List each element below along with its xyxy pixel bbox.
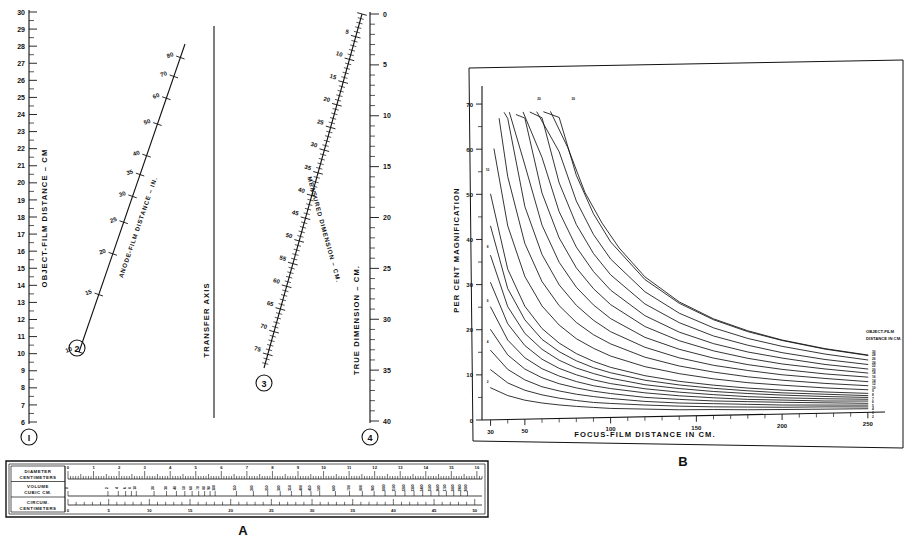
scale-1-tick-label: 25	[17, 94, 25, 101]
chart-x-tick-label: 50	[522, 428, 529, 434]
chart-curves	[491, 112, 868, 410]
scale-1-marker-label: I	[28, 433, 31, 443]
ruler-diameter-tick-label: 7	[246, 465, 249, 470]
scale-4-tick-label: 0	[383, 11, 387, 18]
ruler-volume-tick-label: 30	[164, 486, 168, 490]
scale-3-tick-label: 15	[329, 73, 338, 81]
scale-3-label: MEASURED DIMENSION – CM.	[306, 176, 342, 284]
chart-curve	[523, 112, 868, 369]
scale-1-tick-label: 20	[17, 179, 25, 186]
ruler-row-circum-label-1: CIRCUM.	[27, 500, 49, 505]
ruler-volume-tick-label: 90	[207, 486, 211, 490]
ruler-volume-tick-label: 1500	[428, 484, 432, 491]
ruler-circum-tick-label: 50	[472, 508, 477, 513]
scale-4-tick-label: 10	[383, 112, 391, 119]
ruler-volume-tick-label: 400	[299, 485, 303, 491]
chart-series-legend-line1: OBJECT-FILM	[866, 329, 894, 334]
ruler-volume-tick-label: 1200	[402, 484, 406, 491]
ruler-diameter-tick-label: 10	[321, 465, 326, 470]
ruler-circum-tick-label: 0	[67, 508, 70, 513]
scale-2-tick-label: 35	[126, 168, 135, 176]
chart-y-tick-label: 40	[466, 237, 473, 243]
chart-x-axis-label: FOCUS-FILM DISTANCE IN CM.	[574, 430, 716, 439]
ruler-diameter-tick-label: 3	[143, 465, 146, 470]
scale-1-tick-label: 8	[21, 384, 25, 391]
scale-1-tick-label: 18	[17, 214, 25, 221]
ruler-volume-tick-label: 100	[212, 485, 216, 491]
ruler-volume-tick-label: 40	[173, 486, 177, 490]
scale-1-tick-label: 7	[21, 402, 25, 409]
scale-1-tick-label: 28	[17, 43, 25, 50]
chart-curve	[516, 115, 868, 373]
ruler-diameter-tick-label: 6	[220, 465, 223, 470]
scale-1-tick-label: 16	[17, 248, 25, 255]
chart-curve	[537, 112, 868, 360]
chart-curve	[491, 226, 868, 395]
ruler-volume-tick-label: 1800	[451, 484, 455, 491]
ruler-volume-tick-label: 10	[133, 486, 137, 490]
scale-3-tick-label: 25	[316, 118, 325, 126]
scale-4-tick-label: 30	[383, 316, 391, 323]
ruler-diameter-tick-label: 0	[67, 465, 70, 470]
chart-curve	[504, 113, 868, 382]
chart-y-tick-label: 20	[466, 327, 473, 333]
scale-3-tick-label: 70	[260, 323, 269, 331]
scale-4-tick-label: 5	[383, 61, 387, 68]
scale-2-axis-line	[79, 44, 185, 352]
ruler-scale-circumference: 05101520253035404550	[67, 499, 482, 513]
ruler-diameter-tick-label: 2	[118, 465, 121, 470]
ruler-volume-tick-label: 1000	[382, 484, 386, 491]
scale-3-tick-label: 65	[266, 300, 275, 308]
ruler-volume-tick-label: 6	[123, 487, 127, 489]
ruler-volume-tick-label: 700	[347, 485, 351, 491]
ruler-volume-tick-label: 350	[288, 485, 292, 491]
scale-3-tick-label: 20	[323, 96, 332, 104]
scale-1-tick-label: 27	[17, 60, 25, 67]
chart-y-ticks: 010203040506070	[466, 102, 482, 424]
chart-x-tick-label: 30	[487, 429, 494, 435]
ruler-volume-tick-label: 900	[371, 485, 375, 491]
chart-curve	[491, 350, 868, 405]
ruler-volume-tick-label: 200	[250, 485, 254, 491]
scale-3-tick-label: 60	[272, 277, 281, 285]
ruler-volume-tick-label: 1300	[411, 484, 415, 491]
scale-4-marker-label: 4	[367, 433, 372, 443]
ruler-volume-tick-label: 1700	[443, 484, 447, 491]
chart-y-tick-label: 60	[466, 147, 473, 153]
ruler-diameter-tick-label: 15	[449, 465, 454, 470]
scale-1-tick-label: 21	[17, 162, 25, 169]
ruler-volume-tick-label: 2000	[464, 484, 468, 491]
panel-a-label: A	[238, 523, 248, 538]
chart-curve-label: 4	[487, 340, 489, 344]
scale-1-tick-label: 19	[17, 197, 25, 204]
scale-2-tick-label: 15	[84, 288, 93, 296]
chart-curve	[530, 112, 868, 364]
ruler-volume-tick-label: 0	[65, 487, 69, 489]
ruler-diameter-tick-label: 1	[92, 465, 95, 470]
scale-1-tick-label: 23	[17, 128, 25, 135]
scale-1-tick-label: 15	[17, 265, 25, 272]
ruler-volume-tick-label: 60	[189, 486, 193, 490]
ruler-circum-tick-label: 45	[432, 508, 437, 513]
ruler-volume-tick-label: 300	[277, 485, 281, 491]
chart-x-tick-label: 200	[777, 423, 788, 429]
ruler-circum-tick-label: 35	[350, 508, 355, 513]
ruler-volume-tick-label: 70	[196, 486, 200, 490]
ruler-scale-diameter: 012345678910111213141516	[67, 465, 482, 479]
chart-curve-labels: 2468102030	[486, 97, 576, 385]
ruler-volume-tick-label: 2	[105, 487, 109, 489]
scale-3-tick-label: 75	[254, 345, 263, 353]
figure-svg: 3029282726252423222120191817161514131211…	[0, 0, 915, 540]
ruler-row-volume-label-1: VOLUME	[27, 484, 49, 489]
ruler-volume-tick-label: 800	[359, 485, 363, 491]
scale-3-tick-label: 30	[310, 141, 319, 149]
figure-root: 3029282726252423222120191817161514131211…	[0, 0, 915, 540]
scale-3-tick-label: 10	[335, 50, 344, 58]
chart-x-axis	[482, 412, 885, 420]
ruler-diameter-tick-label: 12	[372, 465, 377, 470]
scale-3-tick-label: 45	[291, 209, 300, 217]
scale-1-tick-label: 24	[17, 111, 25, 118]
ruler-volume-tick-label: 600	[332, 485, 336, 491]
scale-4-ticks: 0510152025303540	[370, 11, 391, 425]
chart-curve-label: 20	[537, 97, 541, 101]
